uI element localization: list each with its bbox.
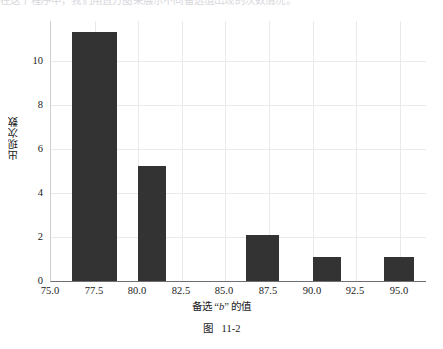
x-axis-tick-label: 85.0 [202,285,246,297]
bar [246,235,279,281]
x-axis-tick-label: 92.5 [333,285,377,297]
y-axis-tick-label: 8 [0,99,43,110]
plot-area [50,21,426,282]
bar-chart-figure: 出现次数 0246810 75.077.580.082.585.087.590.… [0,0,443,349]
caption-number: 11-2 [222,323,241,334]
x-axis-tick-label: 82.5 [159,285,203,297]
x-axis-label-text: 备选 “b” 的值 [192,301,252,312]
bar [72,32,117,281]
y-axis-tick-label: 2 [0,231,43,242]
x-axis-tick-label: 77.5 [72,285,116,297]
y-axis-tick-label: 6 [0,143,43,154]
x-axis-tick-label: 90.0 [290,285,334,297]
bar [384,257,414,281]
bars [51,21,426,281]
x-axis-tick-label: 95.0 [377,285,421,297]
x-axis-tick-label: 75.0 [28,285,72,297]
bar [138,166,166,281]
x-axis-tick-label: 87.5 [246,285,290,297]
y-axis-tick-label: 4 [0,187,43,198]
bar [313,257,341,281]
y-axis-tick-label: 10 [0,55,43,66]
figure-caption: 图11-2 [0,322,443,335]
x-axis-label: 备选 “b” 的值 [0,300,443,313]
caption-prefix: 图 [203,323,213,334]
x-axis-tick-label: 80.0 [115,285,159,297]
